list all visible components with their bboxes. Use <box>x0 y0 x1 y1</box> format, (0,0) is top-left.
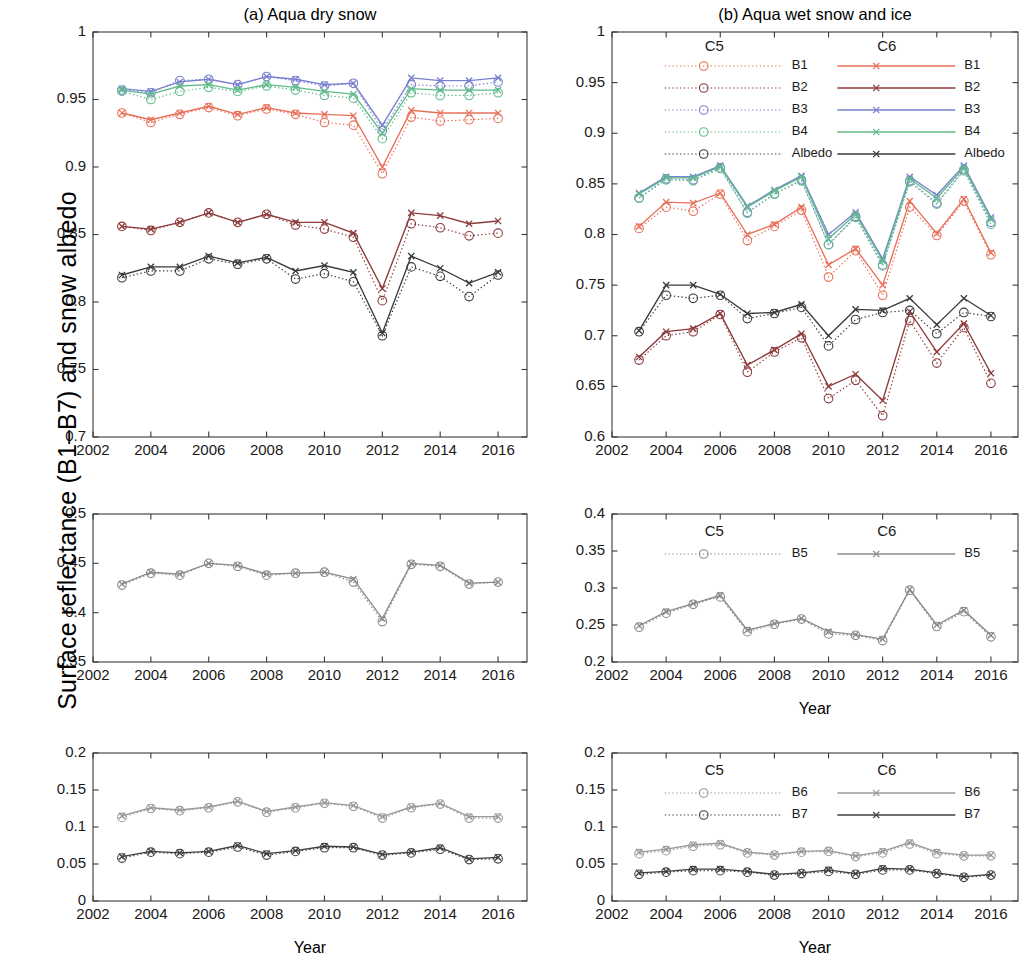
data-point-circle <box>262 851 271 860</box>
legend-panel-b-bottom: C5C6B6B6B7B7 <box>665 761 980 821</box>
y-tick-label: 0.7 <box>584 326 605 343</box>
legend-label-c5-B5: B5 <box>792 545 808 560</box>
y-tick-label: 0.9 <box>584 123 605 140</box>
plot-panel-panel-a-mid: 0.350.40.450.520022004200620082010201220… <box>57 504 527 683</box>
x-tick-label: 2002 <box>595 666 628 683</box>
legend-label-c6-Albedo: Albedo <box>964 145 1004 160</box>
legend-header-c5: C5 <box>705 761 724 778</box>
legend-swatch-c6-B7 <box>837 812 955 818</box>
data-point-circle <box>743 314 752 323</box>
y-tick-label: 0.15 <box>576 780 605 797</box>
data-point-cross <box>825 262 831 268</box>
plot-frame <box>612 514 1018 662</box>
legend-swatch-c6-B6 <box>837 790 955 796</box>
x-tick-label: 2006 <box>704 441 737 458</box>
series-C5-B5 <box>118 559 503 626</box>
data-point-circle <box>436 272 445 281</box>
y-tick-label: 1 <box>78 22 86 39</box>
data-point-circle <box>987 633 996 642</box>
series-line <box>639 169 991 266</box>
data-point-circle <box>662 291 671 300</box>
x-tick-label: 2006 <box>192 905 225 922</box>
legend-label-c6-B1: B1 <box>964 57 980 72</box>
y-tick-label: 0.3 <box>584 578 605 595</box>
legend-swatch-c5-B2 <box>665 84 783 93</box>
legend-panel-b-mid: C5C6B5B5 <box>665 522 980 560</box>
x-tick-label: 2012 <box>866 905 899 922</box>
series-line <box>639 311 991 400</box>
series-C5-B7 <box>118 843 503 864</box>
legend-swatch-c5-B5 <box>665 550 783 559</box>
data-point-circle <box>436 82 445 91</box>
series-C5-B7 <box>635 866 995 882</box>
data-point-cross <box>437 265 443 271</box>
legend-label-c5-B2: B2 <box>792 79 808 94</box>
y-tick-label: 0.1 <box>65 817 86 834</box>
x-axis-label: Year <box>294 939 327 956</box>
data-point-cross <box>907 586 913 592</box>
legend-label-c5-Albedo: Albedo <box>792 145 832 160</box>
data-point-circle <box>635 849 644 858</box>
data-point-circle <box>465 115 474 124</box>
x-tick-label: 2014 <box>920 905 953 922</box>
x-tick-label: 2014 <box>920 441 953 458</box>
y-tick-label: 0.05 <box>576 854 605 871</box>
x-tick-label: 2010 <box>812 905 845 922</box>
data-point-circle <box>378 296 387 305</box>
x-tick-label: 2014 <box>424 441 457 458</box>
x-tick-label: 2016 <box>974 441 1007 458</box>
x-tick-label: 2008 <box>758 905 791 922</box>
legend-header-c6: C6 <box>877 522 896 539</box>
data-point-cross <box>636 354 642 360</box>
legend-swatch-c6-B2 <box>837 85 955 91</box>
data-point-circle <box>635 224 644 233</box>
figure-canvas: 0.70.750.80.850.90.951200220042006200820… <box>0 0 1031 964</box>
x-tick-label: 2014 <box>424 666 457 683</box>
data-point-cross <box>744 362 750 368</box>
y-tick-label: 0.75 <box>576 275 605 292</box>
legend-label-c5-B7: B7 <box>792 806 808 821</box>
data-point-circle <box>635 870 644 879</box>
y-tick-label: 0.85 <box>576 174 605 191</box>
plot-panel-panel-a-bottom: 00.050.10.150.22002200420062008201020122… <box>57 743 527 922</box>
legend-label-c6-B4: B4 <box>964 123 980 138</box>
x-tick-label: 2010 <box>308 905 341 922</box>
data-point-circle <box>878 411 887 420</box>
data-point-circle <box>176 87 185 96</box>
y-tick-label: 0.35 <box>576 541 605 558</box>
data-point-circle <box>770 222 779 231</box>
figure-y-axis-label: Surface reflectance (B1–B7) and snow alb… <box>53 101 82 801</box>
data-point-cross <box>988 370 994 376</box>
legend-swatch-c5-B4 <box>665 128 783 137</box>
x-tick-label: 2006 <box>192 666 225 683</box>
x-tick-label: 2016 <box>481 905 514 922</box>
data-point-circle <box>147 226 156 235</box>
x-tick-label: 2010 <box>812 441 845 458</box>
series-line <box>639 589 991 639</box>
data-point-circle <box>878 291 887 300</box>
x-tick-label: 2014 <box>424 905 457 922</box>
x-axis-label: Year <box>799 700 832 717</box>
data-point-circle <box>635 327 644 336</box>
y-tick-label: 0.1 <box>584 817 605 834</box>
series-C6-Albedo <box>119 253 501 336</box>
x-tick-label: 2004 <box>649 905 682 922</box>
x-tick-label: 2010 <box>812 666 845 683</box>
data-point-circle <box>176 267 185 276</box>
series-C6-B5 <box>636 586 994 642</box>
data-point-circle <box>147 95 156 104</box>
legend-label-c6-B5: B5 <box>964 545 980 560</box>
data-point-circle <box>378 169 387 178</box>
legend-label-c6-B3: B3 <box>964 101 980 116</box>
x-tick-label: 2016 <box>974 905 1007 922</box>
series-C5-B6 <box>635 840 995 861</box>
data-point-circle <box>933 622 942 631</box>
x-tick-label: 2006 <box>192 441 225 458</box>
data-point-cross <box>907 295 913 301</box>
x-tick-label: 2002 <box>595 905 628 922</box>
x-tick-label: 2006 <box>704 666 737 683</box>
x-tick-label: 2002 <box>595 441 628 458</box>
plot-panel-panel-b-bottom: 00.050.10.150.22002200420062008201020122… <box>576 743 1018 922</box>
legend-header-c6: C6 <box>877 761 896 778</box>
data-point-circle <box>635 623 644 632</box>
